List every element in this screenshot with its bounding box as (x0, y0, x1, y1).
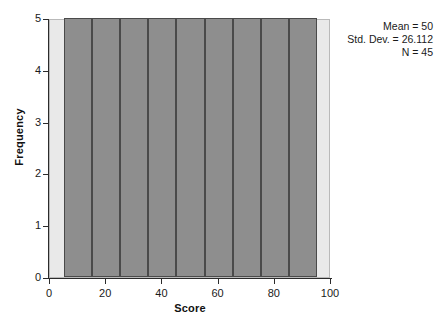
histogram-bar (92, 18, 120, 277)
x-tick-mark (161, 279, 162, 284)
x-tick-label: 60 (198, 287, 238, 299)
stat-stddev: Std. Dev. = 26.112 (340, 33, 433, 46)
y-tick-mark (43, 278, 48, 279)
histogram-bar (148, 18, 176, 277)
stat-mean: Mean = 50 (340, 20, 433, 33)
histogram-bar (261, 18, 289, 277)
x-tick-mark (105, 279, 106, 284)
plot-panel (49, 19, 330, 278)
y-tick-label: 4 (13, 65, 41, 76)
y-tick-mark (43, 19, 48, 20)
histogram-bar (233, 18, 261, 277)
y-tick-label: 5 (13, 13, 41, 24)
histogram-figure: 012345 020406080100 Frequency Score Mean… (0, 0, 437, 329)
histogram-bar (205, 18, 233, 277)
x-axis-title: Score (48, 302, 332, 314)
x-tick-label: 80 (254, 287, 294, 299)
y-tick-mark (43, 71, 48, 72)
x-tick-label: 100 (310, 287, 350, 299)
x-tick-label: 40 (141, 287, 181, 299)
y-tick-label: 1 (13, 220, 41, 231)
histogram-bar (176, 18, 204, 277)
x-tick-label: 0 (29, 287, 69, 299)
histogram-bar (289, 18, 317, 277)
histogram-bar (64, 18, 92, 277)
y-tick-mark (43, 226, 48, 227)
histogram-bar (120, 18, 148, 277)
x-tick-mark (49, 279, 50, 284)
x-tick-label: 20 (85, 287, 125, 299)
y-axis-line (48, 19, 49, 279)
stat-n: N = 45 (340, 46, 433, 59)
x-axis-line (48, 278, 332, 279)
y-tick-label: 0 (13, 272, 41, 283)
x-tick-mark (274, 279, 275, 284)
y-tick-mark (43, 174, 48, 175)
x-tick-mark (218, 279, 219, 284)
x-tick-mark (330, 279, 331, 284)
statistics-annotation: Mean = 50 Std. Dev. = 26.112 N = 45 (340, 20, 433, 59)
y-tick-mark (43, 123, 48, 124)
bars-layer (50, 20, 329, 277)
y-axis-title: Frequency (13, 82, 25, 192)
